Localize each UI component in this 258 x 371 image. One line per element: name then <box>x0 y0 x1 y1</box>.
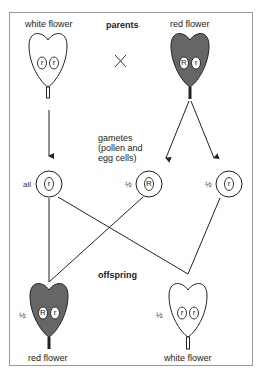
offspring-white-flower <box>169 284 207 349</box>
parent-red-flower <box>171 34 209 99</box>
allele-offspring-white-2: r <box>189 308 199 317</box>
allele-offspring-red-2: r <box>50 308 60 317</box>
gametes-label-line2: (pollen and <box>98 143 143 153</box>
gametes-label-line3: egg cells) <box>98 153 137 163</box>
gamete-fraction-all: all <box>23 180 31 189</box>
gametes-label-line1: gametes <box>98 133 133 143</box>
offspring-fraction-white: ½ <box>156 311 163 320</box>
gamete-allele-r: r <box>224 179 234 188</box>
allele-parent-white-2: r <box>49 58 59 67</box>
allele-offspring-red-1: R <box>38 308 48 317</box>
arrow-red-to-gamete-r <box>191 101 214 158</box>
offspring-white-label: white flower <box>164 353 212 363</box>
allele-parent-red-2: r <box>191 58 201 67</box>
cross-symbol <box>115 55 126 67</box>
gamete-fraction-r: ½ <box>205 180 212 189</box>
allele-parent-red-1: R <box>179 58 189 67</box>
gamete-fraction-R: ½ <box>125 180 132 189</box>
parent-white-label: white flower <box>25 19 73 29</box>
offspring-heading: offspring <box>98 270 137 280</box>
parent-white-flower <box>29 34 67 98</box>
gamete-allele-R: R <box>144 179 154 188</box>
parent-red-label: red flower <box>170 19 210 29</box>
offspring-red-label: red flower <box>28 353 68 363</box>
allele-parent-white-1: r <box>37 58 47 67</box>
offspring-fraction-red: ½ <box>19 311 26 320</box>
allele-offspring-white-1: r <box>177 308 187 317</box>
gamete-allele-all-r: r <box>44 179 54 188</box>
arrow-red-to-gamete-R <box>166 101 189 158</box>
parents-heading: parents <box>106 20 139 30</box>
offspring-red-flower <box>30 284 68 349</box>
